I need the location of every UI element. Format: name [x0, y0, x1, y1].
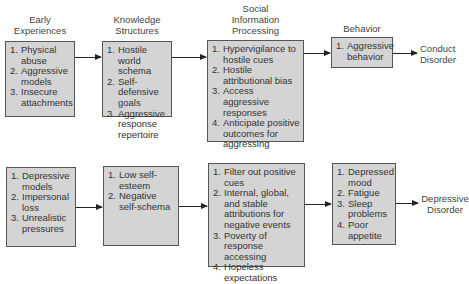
outcome-depressive-disorder: Depressive Disorder	[421, 193, 469, 215]
box-behavior-depressive: 1.Depressed mood 2.Fatigue 3.Sleep probl…	[332, 163, 396, 245]
item-number: 3.	[337, 199, 348, 220]
list-item: 1.Hostile world schema	[107, 45, 168, 77]
item-number: 1.	[213, 167, 224, 188]
list-item: 4.Hopeless expectations	[213, 262, 301, 283]
item-number: 1.	[107, 45, 118, 77]
header-behavior: Behavior	[331, 23, 393, 34]
list-item: 1.Physical abuse	[10, 45, 71, 66]
item-text: Poor appetite	[348, 220, 392, 241]
list-item: 4.Poor appetite	[337, 220, 392, 241]
list-item: 3.Poverty of response accessing	[213, 231, 301, 263]
item-number: 2.	[213, 188, 224, 230]
item-text: Sleep problems	[348, 199, 392, 220]
item-number: 1.	[11, 171, 22, 192]
item-number: 1.	[337, 167, 348, 188]
list-item: 1.Low self-esteem	[108, 170, 175, 191]
item-text: Physical abuse	[21, 45, 71, 66]
list-item: 3.Insecure attachments	[10, 87, 71, 108]
item-number: 1.	[10, 45, 21, 66]
item-text: Access aggressive responses	[223, 86, 300, 118]
box-behavior-conduct: 1.Aggressive behavior	[331, 37, 393, 68]
box-early-experiences-depressive: 1.Depressive models 2.Impersonal loss 3.…	[6, 167, 76, 247]
arrow-right-icon	[393, 53, 417, 54]
header-knowledge-structures: Knowledge Structures	[100, 14, 174, 36]
list-item: 2.Aggressive models	[10, 66, 71, 87]
item-text: Filter out positive cues	[224, 167, 301, 188]
item-number: 2.	[10, 66, 21, 87]
list-item: 2.Self-defensive goals	[107, 77, 168, 109]
arrow-right-icon	[75, 57, 101, 58]
item-text: Self-defensive goals	[118, 77, 168, 109]
list-item: 1.Aggressive behavior	[336, 41, 389, 62]
item-number: 1.	[336, 41, 347, 62]
item-text: Aggressive models	[21, 66, 71, 87]
item-text: Internal, global, and stable attribution…	[224, 188, 301, 230]
arrow-right-icon	[305, 204, 331, 205]
box-social-information-processing-depressive: 1.Filter out positive cues 2.Internal, g…	[208, 163, 305, 267]
arrow-right-icon	[179, 206, 207, 207]
item-text: Hostile attributional bias	[223, 65, 300, 86]
header-social-information-processing: Social Information Processing	[207, 3, 304, 36]
list-item: 3.Unrealistic pressures	[11, 213, 72, 234]
item-number: 3.	[213, 231, 224, 263]
list-item: 3.Aggressive response repertoire	[107, 109, 168, 141]
box-social-information-processing-conduct: 1.Hypervigilance to hostile cues 2.Hosti…	[207, 40, 304, 142]
item-text: Anticipate positive outcomes for aggress…	[223, 118, 300, 150]
item-text: Poverty of response accessing	[224, 231, 301, 263]
item-number: 3.	[10, 87, 21, 108]
item-text: Negative self-schema	[119, 191, 175, 212]
item-text: Impersonal loss	[22, 192, 72, 213]
item-number: 2.	[108, 191, 119, 212]
item-text: Insecure attachments	[21, 87, 73, 108]
header-early-experiences: Early Experiences	[5, 14, 75, 36]
item-number: 3.	[212, 86, 223, 118]
list-item: 2.Impersonal loss	[11, 192, 72, 213]
list-item: 2.Negative self-schema	[108, 191, 175, 212]
box-early-experiences-conduct: 1.Physical abuse 2.Aggressive models 3.I…	[5, 41, 75, 117]
outcome-conduct-disorder: Conduct Disorder	[420, 43, 466, 65]
item-text: Low self-esteem	[119, 170, 175, 191]
item-text: Aggressive response repertoire	[118, 109, 168, 141]
item-number: 1.	[212, 44, 223, 65]
arrow-right-icon	[304, 53, 330, 54]
item-text: Hopeless expectations	[224, 262, 301, 283]
box-knowledge-structures-conduct: 1.Hostile world schema 2.Self-defensive …	[102, 41, 172, 117]
item-number: 1.	[108, 170, 119, 191]
item-text: Unrealistic pressures	[22, 213, 72, 234]
item-number: 3.	[107, 109, 118, 141]
arrow-right-icon	[396, 203, 418, 204]
arrow-right-icon	[172, 57, 206, 58]
item-number: 4.	[212, 118, 223, 150]
item-number: 2.	[107, 77, 118, 109]
item-number: 2.	[212, 65, 223, 86]
item-number: 4.	[337, 220, 348, 241]
item-text: Depressed mood	[348, 167, 394, 188]
list-item: 2.Hostile attributional bias	[212, 65, 300, 86]
list-item: 1.Depressed mood	[337, 167, 392, 188]
list-item: 2.Internal, global, and stable attributi…	[213, 188, 301, 230]
arrow-right-icon	[76, 207, 102, 208]
list-item: 1.Hypervigilance to hostile cues	[212, 44, 300, 65]
item-text: Aggressive behavior	[347, 41, 394, 62]
item-number: 2.	[11, 192, 22, 213]
item-text: Hostile world schema	[118, 45, 168, 77]
item-number: 4.	[213, 262, 224, 283]
list-item: 4.Anticipate positive outcomes for aggre…	[212, 118, 300, 150]
box-knowledge-structures-depressive: 1.Low self-esteem 2.Negative self-schema	[103, 166, 179, 246]
list-item: 3.Access aggressive responses	[212, 86, 300, 118]
item-number: 3.	[11, 213, 22, 234]
item-text: Hypervigilance to hostile cues	[223, 44, 300, 65]
item-text: Depressive models	[22, 171, 72, 192]
list-item: 3.Sleep problems	[337, 199, 392, 220]
list-item: 1.Filter out positive cues	[213, 167, 301, 188]
list-item: 1.Depressive models	[11, 171, 72, 192]
